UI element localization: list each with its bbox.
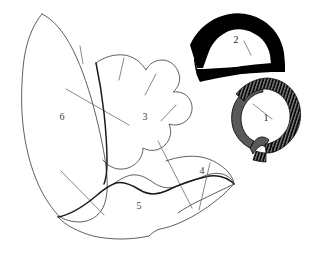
fragment-3-label: 3 [143, 111, 148, 122]
fragment-5-label: 5 [137, 200, 142, 211]
fragment-4-group: 4 [166, 156, 234, 213]
fragment-1-group: 1 [232, 78, 301, 162]
fragment-6-break-c [61, 171, 104, 215]
fragment-4-label: 4 [200, 165, 205, 176]
fragment-2-break-a [244, 41, 251, 55]
fragment-2-group: 2 [190, 13, 285, 82]
fragment-4-lower-edge [178, 184, 234, 213]
fragment-6-break-b [66, 89, 129, 125]
fragment-2-label: 2 [234, 34, 239, 45]
fragment-3-break-b [145, 74, 156, 95]
fragment-3-break-c [161, 105, 176, 121]
fragment-3-break-a [119, 58, 124, 80]
fragment-diagram-svg: 6 3 5 4 [0, 0, 313, 254]
figure-root: 6 3 5 4 [0, 0, 313, 254]
fragment-6-break-a [80, 46, 83, 64]
fragment-6-right-edge [42, 14, 107, 222]
fragment-6-label: 6 [60, 111, 65, 122]
fragment-6-outline [22, 14, 59, 216]
fragment-6-group: 6 [22, 14, 129, 222]
fragment-1-outer-lower-hook [253, 151, 266, 162]
fragment-3-break-d [158, 141, 192, 208]
fragment-1-break-a [253, 104, 272, 119]
fragment-5-group: 5 [58, 173, 234, 239]
